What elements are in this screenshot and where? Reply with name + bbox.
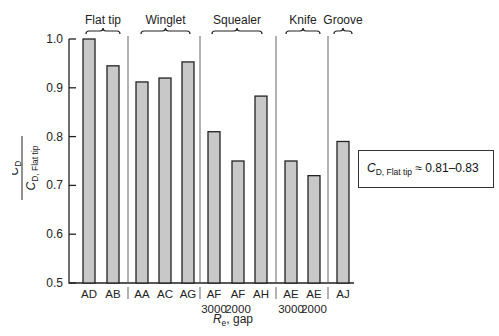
- annotation-text: CD, Flat tip ≈ 0.81–0.83: [367, 161, 479, 177]
- y-tick-label: 1.0: [46, 32, 63, 46]
- group-brace: [334, 28, 352, 34]
- bar: [136, 82, 148, 283]
- bar: [159, 78, 171, 283]
- bar: [285, 161, 297, 283]
- category-label: AB: [105, 288, 121, 300]
- svg-text:CD, Flat tip: CD, Flat tip: [24, 145, 40, 190]
- bar: [308, 176, 320, 283]
- category-sublabel: 2000: [301, 303, 327, 315]
- bar: [232, 161, 244, 283]
- bar: [208, 132, 220, 283]
- annotation-box: CD, Flat tip ≈ 0.81–0.83: [358, 150, 494, 188]
- x-axis-label: Re, gap: [213, 312, 253, 328]
- category-label: AE: [306, 288, 322, 300]
- category-label: AH: [253, 288, 269, 300]
- group-label: Knife: [289, 13, 317, 27]
- y-tick-label: 0.6: [46, 227, 63, 241]
- group-brace: [286, 28, 320, 34]
- svg-text:CD: CD: [12, 161, 23, 176]
- category-label: AA: [134, 288, 150, 300]
- bar: [107, 66, 119, 283]
- group-brace: [86, 28, 120, 34]
- group-label: Flat tip: [85, 13, 121, 27]
- y-tick-label: 0.5: [46, 276, 63, 290]
- category-label: AD: [81, 288, 97, 300]
- bar: [337, 141, 349, 283]
- group-label: Squealer: [213, 13, 261, 27]
- category-label: AG: [180, 288, 197, 300]
- category-label: AF: [231, 288, 246, 300]
- category-label: AC: [157, 288, 173, 300]
- group-brace: [141, 28, 190, 34]
- category-sublabel: 3000: [278, 303, 304, 315]
- category-label: AE: [283, 288, 299, 300]
- group-label: Groove: [323, 13, 363, 27]
- category-label: AJ: [336, 288, 349, 300]
- group-brace: [212, 28, 262, 34]
- category-labels: ADABAAACAGAF3000AF2000AHAE3000AE2000AJ: [81, 288, 350, 315]
- group-label: Winglet: [145, 13, 186, 27]
- bar: [182, 62, 194, 283]
- y-axis-label: CD CD, Flat tip: [12, 118, 52, 218]
- group-labels: Flat tipWingletSquealerKnifeGroove: [85, 13, 363, 34]
- bar: [255, 96, 267, 283]
- category-label: AF: [207, 288, 222, 300]
- y-tick-label: 0.9: [46, 81, 63, 95]
- group-separators: [128, 36, 328, 299]
- bars: [83, 39, 349, 283]
- bar: [83, 39, 95, 283]
